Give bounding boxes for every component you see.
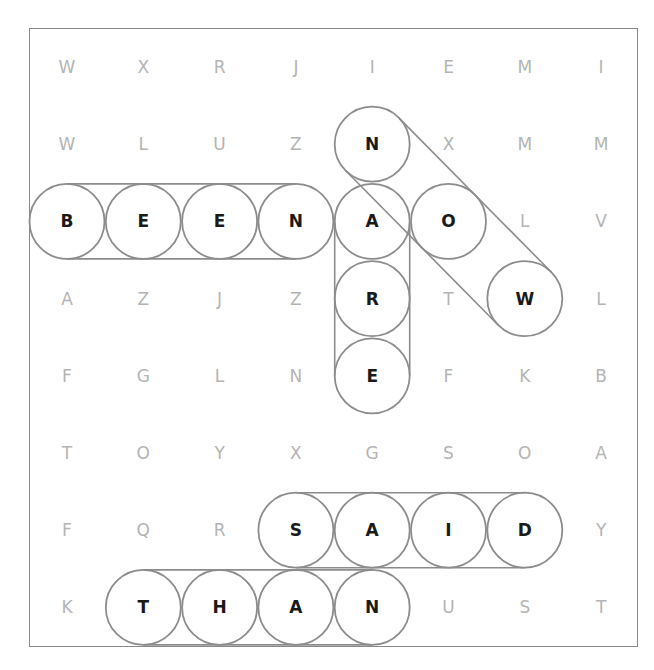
grid-letter-found[interactable]: S xyxy=(258,492,334,569)
grid-letter[interactable]: Z xyxy=(105,260,181,337)
grid-letter-found[interactable]: E xyxy=(182,183,258,260)
grid-letter-found[interactable]: E xyxy=(105,183,181,260)
grid-letter[interactable]: T xyxy=(411,260,487,337)
grid-letter-found[interactable]: W xyxy=(487,260,563,337)
grid-letter-found[interactable]: H xyxy=(182,569,258,646)
grid-letter-found[interactable]: N xyxy=(258,183,334,260)
grid-letter[interactable]: E xyxy=(411,29,487,106)
grid-letter[interactable]: U xyxy=(182,106,258,183)
grid-letter[interactable]: Q xyxy=(105,492,181,569)
grid-letter[interactable]: X xyxy=(258,415,334,492)
grid-letter[interactable]: S xyxy=(411,415,487,492)
grid-letter[interactable]: J xyxy=(258,29,334,106)
grid-letter[interactable]: M xyxy=(487,29,563,106)
grid-letter[interactable]: Z xyxy=(258,260,334,337)
grid-letter[interactable]: S xyxy=(487,569,563,646)
grid-letter[interactable]: F xyxy=(29,337,105,414)
grid-letter[interactable]: T xyxy=(563,569,639,646)
grid-letter-found[interactable]: A xyxy=(258,569,334,646)
grid-letter[interactable]: R xyxy=(182,492,258,569)
grid-letter[interactable]: I xyxy=(334,29,410,106)
grid-letter[interactable]: Y xyxy=(182,415,258,492)
grid-letter[interactable]: T xyxy=(29,415,105,492)
grid-letter[interactable]: Y xyxy=(563,492,639,569)
grid-letter[interactable]: O xyxy=(105,415,181,492)
grid-letter[interactable]: W xyxy=(29,29,105,106)
grid-letter-found[interactable]: B xyxy=(29,183,105,260)
grid-letter-found[interactable]: A xyxy=(334,183,410,260)
grid-letter[interactable]: Z xyxy=(258,106,334,183)
grid-letter[interactable]: L xyxy=(487,183,563,260)
grid-letter[interactable]: X xyxy=(105,29,181,106)
grid-letter[interactable]: N xyxy=(258,337,334,414)
grid-letter[interactable]: G xyxy=(105,337,181,414)
grid-letter[interactable]: L xyxy=(563,260,639,337)
grid-letter[interactable]: L xyxy=(182,337,258,414)
grid-letter[interactable]: O xyxy=(487,415,563,492)
grid-letter-found[interactable]: R xyxy=(334,260,410,337)
grid-letter[interactable]: G xyxy=(334,415,410,492)
grid-letter-found[interactable]: T xyxy=(105,569,181,646)
grid-letter[interactable]: B xyxy=(563,337,639,414)
grid-letter[interactable]: M xyxy=(563,106,639,183)
grid-letter[interactable]: U xyxy=(411,569,487,646)
grid-letter[interactable]: X xyxy=(411,106,487,183)
grid-letter[interactable]: I xyxy=(563,29,639,106)
grid-letter[interactable]: L xyxy=(105,106,181,183)
grid-letter[interactable]: K xyxy=(487,337,563,414)
grid-letter[interactable]: V xyxy=(563,183,639,260)
grid-letter-found[interactable]: N xyxy=(334,569,410,646)
grid-letter-found[interactable]: D xyxy=(487,492,563,569)
grid-letter-found[interactable]: O xyxy=(411,183,487,260)
grid-letter-found[interactable]: I xyxy=(411,492,487,569)
grid-letter-found[interactable]: A xyxy=(334,492,410,569)
grid-letter-found[interactable]: N xyxy=(334,106,410,183)
grid-letter[interactable]: J xyxy=(182,260,258,337)
grid-letter-found[interactable]: E xyxy=(334,337,410,414)
grid-letter[interactable]: F xyxy=(29,492,105,569)
grid-letter[interactable]: W xyxy=(29,106,105,183)
grid-letter[interactable]: K xyxy=(29,569,105,646)
grid-letter[interactable]: F xyxy=(411,337,487,414)
grid-letter[interactable]: R xyxy=(182,29,258,106)
grid-letter[interactable]: A xyxy=(29,260,105,337)
grid-letter[interactable]: A xyxy=(563,415,639,492)
grid-letter[interactable]: M xyxy=(487,106,563,183)
